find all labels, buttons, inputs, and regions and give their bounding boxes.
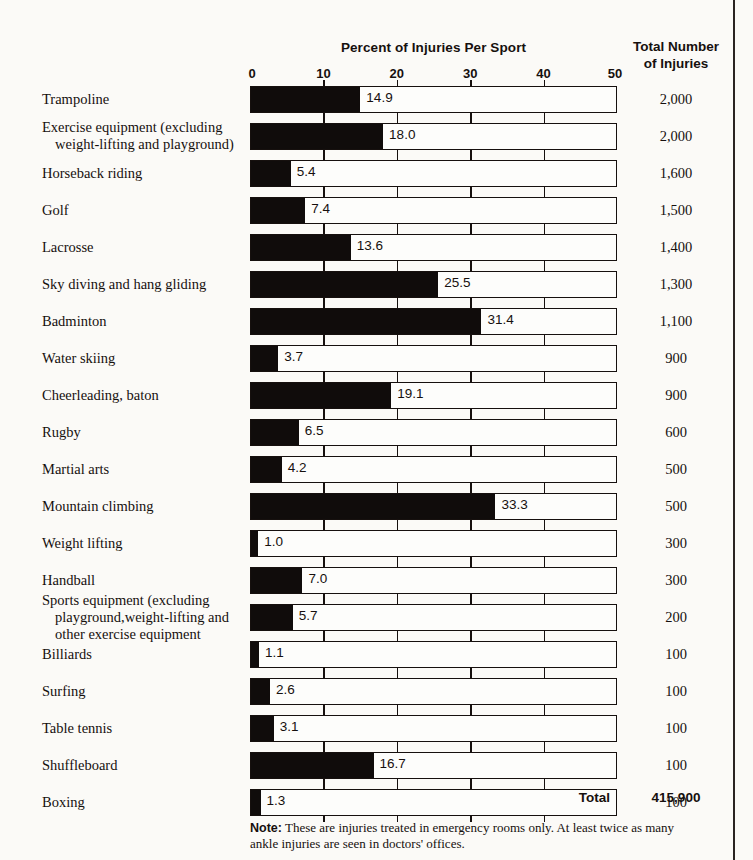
gridline-tick xyxy=(544,117,546,123)
category-label-line: weight-lifting and playground) xyxy=(42,136,247,153)
gridline-tick xyxy=(470,672,472,678)
total-value: 1,600 xyxy=(622,165,730,182)
bar-fill xyxy=(250,308,481,335)
bar-row[interactable]: 33.3 xyxy=(250,493,617,530)
bar-row[interactable]: 13.6 xyxy=(250,234,617,271)
bar-row[interactable]: 16.7 xyxy=(250,752,617,789)
bar-row[interactable]: 14.9 xyxy=(250,86,617,123)
gridline-tick xyxy=(397,117,399,123)
bar-row[interactable]: 4.2 xyxy=(250,456,617,493)
bar-value-label: 19.1 xyxy=(397,386,423,401)
gridline-tick xyxy=(470,80,472,86)
gridline-tick xyxy=(397,561,399,567)
bar-row[interactable]: 1.0 xyxy=(250,530,617,567)
bar-frame xyxy=(250,752,617,779)
category-label: Table tennis xyxy=(42,720,247,737)
bar-row[interactable]: 3.7 xyxy=(250,345,617,382)
bar-row[interactable]: 6.5 xyxy=(250,419,617,456)
total-row: 2,000 xyxy=(622,86,730,123)
bar-frame xyxy=(250,123,617,150)
category-label-line: Martial arts xyxy=(42,461,247,478)
bar-row[interactable]: 5.7 xyxy=(250,604,617,641)
bar-fill xyxy=(250,345,278,372)
bar-value-label: 5.4 xyxy=(297,164,316,179)
gridline-tick xyxy=(323,302,325,308)
gridline-tick xyxy=(323,228,325,234)
gridline-tick xyxy=(544,450,546,456)
bar-row[interactable]: 1.1 xyxy=(250,641,617,678)
category-label-line: Trampoline xyxy=(42,91,247,108)
bar-row[interactable]: 25.5 xyxy=(250,271,617,308)
category-label-row: Lacrosse xyxy=(42,234,242,271)
gridline-tick xyxy=(470,709,472,715)
bar-frame xyxy=(250,234,617,261)
bar-row[interactable]: 31.4 xyxy=(250,308,617,345)
category-label-row: Sports equipment (excludingplayground,we… xyxy=(42,604,242,641)
gridline-tick xyxy=(323,339,325,345)
total-row: 300 xyxy=(622,530,730,567)
bar-row[interactable]: 7.0 xyxy=(250,567,617,604)
gridline-tick xyxy=(323,598,325,604)
bar-fill xyxy=(250,604,293,631)
gridline-tick xyxy=(397,339,399,345)
note-text: These are injuries treated in emergency … xyxy=(250,820,674,851)
bar-frame xyxy=(250,641,617,668)
gridline-tick xyxy=(544,524,546,530)
bar-value-label: 1.3 xyxy=(267,793,286,808)
gridline-tick xyxy=(323,376,325,382)
total-row: 900 xyxy=(622,345,730,382)
gridline-tick xyxy=(397,635,399,641)
gridline-tick xyxy=(544,228,546,234)
bar-row[interactable]: 3.1 xyxy=(250,715,617,752)
gridline-tick xyxy=(397,524,399,530)
category-label: Horseback riding xyxy=(42,165,247,182)
category-label: Sky diving and hang gliding xyxy=(42,276,247,293)
category-label-line: Sky diving and hang gliding xyxy=(42,276,247,293)
gridline-tick xyxy=(323,672,325,678)
x-tick-label-50: 50 xyxy=(608,66,622,81)
gridline-tick xyxy=(470,413,472,419)
bar-row[interactable]: 19.1 xyxy=(250,382,617,419)
category-label-row: Sky diving and hang gliding xyxy=(42,271,242,308)
chart-page: Percent of Injuries Per Sport Total Numb… xyxy=(0,0,753,860)
bar-row[interactable]: 18.0 xyxy=(250,123,617,160)
gridline-tick xyxy=(470,154,472,160)
category-label-line: Sports equipment (excluding xyxy=(42,592,247,609)
bar-value-label: 4.2 xyxy=(288,460,307,475)
gridline-tick xyxy=(544,191,546,197)
gridline-tick xyxy=(470,265,472,271)
category-label-row: Trampoline xyxy=(42,86,242,123)
bar-frame xyxy=(250,382,617,409)
bar-row[interactable]: 5.4 xyxy=(250,160,617,197)
total-value: 500 xyxy=(622,461,730,478)
category-label-row: Water skiing xyxy=(42,345,242,382)
gridline-tick xyxy=(470,746,472,752)
total-value: 900 xyxy=(622,387,730,404)
category-label: Weight lifting xyxy=(42,535,247,552)
category-label-row: Cheerleading, baton xyxy=(42,382,242,419)
total-row: 300 xyxy=(622,567,730,604)
category-label-row: Rugby xyxy=(42,419,242,456)
category-label: Handball xyxy=(42,572,247,589)
gridline-tick xyxy=(470,376,472,382)
bar-fill xyxy=(250,493,495,520)
total-value: 100 xyxy=(622,646,730,663)
bar-fill xyxy=(250,752,374,779)
gridline-tick xyxy=(544,709,546,715)
bar-value-label: 1.0 xyxy=(264,534,283,549)
bar-fill xyxy=(250,641,259,668)
bar-value-label: 1.1 xyxy=(265,645,284,660)
category-label-row: Golf xyxy=(42,197,242,234)
gridline-tick xyxy=(470,487,472,493)
gridline-tick xyxy=(323,450,325,456)
category-label-line: Golf xyxy=(42,202,247,219)
bar-row[interactable]: 7.4 xyxy=(250,197,617,234)
bar-value-label: 16.7 xyxy=(380,756,406,771)
gridline-tick xyxy=(544,598,546,604)
x-tick-label-0: 0 xyxy=(248,66,255,81)
total-value: 1,300 xyxy=(622,276,730,293)
total-value: 900 xyxy=(622,350,730,367)
bar-fill xyxy=(250,567,302,594)
bar-row[interactable]: 2.6 xyxy=(250,678,617,715)
total-row: 2,000 xyxy=(622,123,730,160)
